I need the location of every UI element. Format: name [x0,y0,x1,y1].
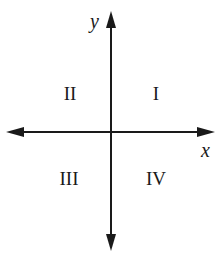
coordinate-plane: y x II I III IV [0,0,216,256]
x-axis-label: x [200,139,210,161]
x-axis-left-arrow-icon [6,127,24,137]
quadrant-label-iv: IV [146,168,166,189]
y-axis-label: y [88,10,99,33]
y-axis-down-arrow-icon [106,234,116,251]
quadrant-label-iii: III [60,168,79,189]
quadrant-label-ii: II [64,83,77,104]
quadrant-label-i: I [153,83,159,104]
x-axis-right-arrow-icon [197,127,215,137]
y-axis-up-arrow-icon [106,11,116,28]
